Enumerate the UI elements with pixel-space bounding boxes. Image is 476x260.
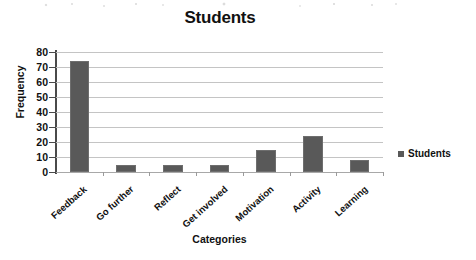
x-axis-tick-labels: FeedbackGo furtherReflectGet involvedMot… <box>0 0 476 260</box>
y-axis-tick <box>49 157 56 158</box>
x-axis-title: Categories <box>56 233 383 245</box>
x-axis-tick <box>103 172 104 176</box>
y-axis-tick <box>49 112 56 113</box>
y-axis-tick <box>49 67 56 68</box>
chart-legend: Students <box>398 148 451 159</box>
y-axis-tick <box>49 172 56 173</box>
x-axis-tick <box>243 172 244 176</box>
legend-label-students: Students <box>408 148 451 159</box>
y-axis-tick <box>49 142 56 143</box>
legend-swatch-students <box>398 151 404 157</box>
y-axis-tick <box>49 82 56 83</box>
x-axis-tick <box>149 172 150 176</box>
x-axis-tick <box>196 172 197 176</box>
x-axis-tick <box>383 172 384 176</box>
x-axis-tick <box>336 172 337 176</box>
y-axis-tick <box>49 127 56 128</box>
y-axis-tick <box>49 97 56 98</box>
x-axis-tick <box>290 172 291 176</box>
y-axis-tick <box>49 52 56 53</box>
